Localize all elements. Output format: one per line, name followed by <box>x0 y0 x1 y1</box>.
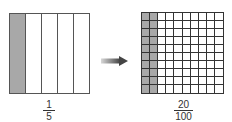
grid-cell <box>166 13 174 21</box>
grid-cell <box>199 13 207 21</box>
grid-cell <box>166 45 174 53</box>
grid-cell <box>191 21 199 29</box>
grid-cell <box>215 13 223 21</box>
grid-cell <box>166 37 174 45</box>
grid-cell <box>158 53 166 61</box>
grid-cell <box>215 77 223 85</box>
grid-cell <box>199 53 207 61</box>
grid-cell <box>150 37 158 45</box>
grid-cell <box>158 21 166 29</box>
fifth-column <box>10 14 26 93</box>
grid-cell <box>207 53 215 61</box>
grid-cell <box>158 77 166 85</box>
grid-cell <box>150 21 158 29</box>
grid-cell <box>191 29 199 37</box>
fifth-column <box>74 14 89 93</box>
fifth-column <box>42 14 58 93</box>
grid-cell <box>183 37 191 45</box>
grid-cell <box>150 77 158 85</box>
grid-cell <box>150 85 158 93</box>
grid-cell <box>158 69 166 77</box>
grid-cell <box>142 85 150 93</box>
grid-cell <box>199 37 207 45</box>
grid-cell <box>166 21 174 29</box>
grid-cell <box>199 45 207 53</box>
grid-cell <box>191 77 199 85</box>
grid-cell <box>174 53 182 61</box>
right-arrow-icon <box>101 56 128 66</box>
grid-cell <box>207 29 215 37</box>
grid-cell <box>150 61 158 69</box>
grid-cell <box>150 29 158 37</box>
fraction-one-fifth: 1 5 <box>43 99 55 122</box>
grid-cell <box>215 21 223 29</box>
grid-cell <box>215 85 223 93</box>
grid-cell <box>207 13 215 21</box>
grid-cell <box>174 21 182 29</box>
numerator: 1 <box>43 99 55 111</box>
denominator: 5 <box>43 111 55 122</box>
grid-cell <box>207 77 215 85</box>
grid-cell <box>191 69 199 77</box>
grid-cell <box>166 53 174 61</box>
grid-cell <box>191 37 199 45</box>
grid-cell <box>207 45 215 53</box>
grid-cell <box>215 29 223 37</box>
grid-cell <box>191 85 199 93</box>
grid-cell <box>142 53 150 61</box>
grid-cell <box>183 29 191 37</box>
grid-cell <box>174 29 182 37</box>
grid-cell <box>142 69 150 77</box>
grid-cell <box>174 61 182 69</box>
grid-cell <box>142 77 150 85</box>
grid-cell <box>207 69 215 77</box>
grid-cell <box>174 85 182 93</box>
denominator: 100 <box>174 111 193 122</box>
grid-cell <box>150 53 158 61</box>
grid-cell <box>158 45 166 53</box>
grid-cell <box>166 69 174 77</box>
grid-cell <box>174 69 182 77</box>
grid-cell <box>183 45 191 53</box>
grid-cell <box>142 13 150 21</box>
grid-cell <box>158 61 166 69</box>
fifths-model <box>9 13 90 94</box>
grid-cell <box>174 77 182 85</box>
grid-cell <box>215 69 223 77</box>
grid-cell <box>199 77 207 85</box>
grid-cell <box>183 13 191 21</box>
grid-cell <box>207 61 215 69</box>
grid-cell <box>142 29 150 37</box>
grid-cell <box>150 45 158 53</box>
grid-cell <box>183 85 191 93</box>
grid-cell <box>183 53 191 61</box>
grid-cell <box>191 61 199 69</box>
grid-cell <box>199 21 207 29</box>
grid-cell <box>142 45 150 53</box>
grid-cell <box>142 37 150 45</box>
grid-cell <box>199 69 207 77</box>
grid-cell <box>191 13 199 21</box>
grid-cell <box>199 61 207 69</box>
hundredths-grid <box>141 12 224 94</box>
grid-cell <box>191 45 199 53</box>
grid-cell <box>158 29 166 37</box>
grid-cell <box>166 85 174 93</box>
grid-cell <box>174 37 182 45</box>
grid-cell <box>158 37 166 45</box>
grid-cell <box>207 85 215 93</box>
grid-cell <box>166 29 174 37</box>
fraction-twenty-hundredths: 20 100 <box>174 99 193 122</box>
grid-cell <box>215 37 223 45</box>
grid-cell <box>150 69 158 77</box>
grid-cell <box>158 13 166 21</box>
grid-cell <box>183 69 191 77</box>
grid-cell <box>199 29 207 37</box>
grid-cell <box>166 77 174 85</box>
grid-cell <box>199 85 207 93</box>
fifth-column <box>58 14 74 93</box>
grid-cell <box>142 21 150 29</box>
grid-cell <box>142 61 150 69</box>
grid-cell <box>215 45 223 53</box>
grid-cell <box>166 61 174 69</box>
